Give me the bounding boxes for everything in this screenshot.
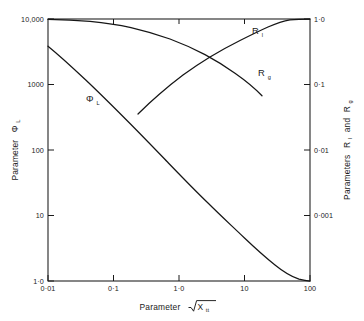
plot-frame	[48, 19, 310, 281]
y-left-title-word: Parameter	[10, 140, 20, 181]
x-title-radicand-sub: tt	[206, 307, 210, 313]
y-right-title-sym2: R	[342, 106, 352, 112]
y-right-tick-label-2: 0·01	[314, 146, 329, 155]
svg-text:Parameter: Parameter	[140, 302, 181, 312]
x-tick-label-2: 1·0	[174, 284, 185, 293]
y-axis-left-ticks	[48, 19, 54, 281]
y-left-title-sub: L	[15, 119, 21, 122]
curve-label-phi-l: Φ L	[86, 93, 100, 106]
y-right-tick-label-0: 1·0	[314, 15, 325, 24]
y-right-tick-label-1: 0·1	[314, 80, 325, 89]
curve-label-r-l: R l	[252, 25, 263, 38]
x-axis-ticks-top	[114, 19, 245, 24]
svg-text:Parameter Φ L: Parameter Φ L	[10, 119, 21, 180]
x-tick-label-4: 100	[304, 284, 316, 293]
y-axis-right-title: Parameters R l and R g	[342, 100, 354, 200]
x-axis-title: Parameter X tt	[140, 301, 216, 314]
y-right-title-sym1: R	[342, 142, 352, 148]
curve-label-r-g: R g	[258, 67, 271, 80]
x-tick-label-3: 10	[240, 284, 248, 293]
x-axis-ticks	[48, 275, 310, 281]
y-left-tick-label-4: 1·0	[33, 277, 44, 286]
y-axis-left-title: Parameter Φ L	[10, 119, 21, 180]
curve-phi-l	[48, 46, 310, 281]
y-right-tick-label-3: 0·001	[314, 211, 333, 220]
x-title-radicand: X	[198, 302, 204, 312]
y-left-tick-label-2: 100	[32, 146, 44, 155]
y-axis-right-ticks	[304, 19, 310, 216]
curve-r-g	[48, 19, 262, 95]
x-title-word: Parameter	[140, 302, 181, 312]
lockhart-martinelli-chart: 0·01 0·1 1·0 10 100 10,000 1000 100 10 1…	[0, 0, 364, 321]
y-left-tick-label-3: 10	[36, 211, 44, 220]
svg-text:X tt: X tt	[198, 302, 210, 313]
y-right-title-sub1: l	[347, 138, 353, 139]
chart-figure: 0·01 0·1 1·0 10 100 10,000 1000 100 10 1…	[0, 0, 364, 321]
y-right-title-conj: and	[342, 118, 352, 133]
y-left-tick-label-0: 10,000	[21, 15, 44, 24]
x-tick-label-1: 0·1	[108, 284, 119, 293]
y-left-title-symbol: Φ	[10, 125, 20, 132]
y-left-tick-label-1: 1000	[27, 80, 44, 89]
svg-text:Parameters R l: Parameters R l and R g	[342, 100, 354, 200]
y-right-title-word: Parameters	[342, 155, 352, 200]
y-right-title-sub2: g	[347, 100, 353, 103]
